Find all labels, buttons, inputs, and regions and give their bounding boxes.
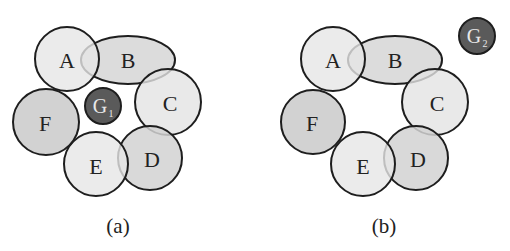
node-f: F [13,89,79,155]
node-c-label: C [163,91,178,116]
figure: B A C D E F G [0,0,510,251]
caption-a: (a) [106,214,129,238]
node-a: A [301,27,365,91]
node-e-label: E [89,154,102,179]
node-e: E [331,132,395,196]
caption-b: (b) [372,214,397,238]
node-g1: G 1 [85,88,121,124]
node-g1-subscript: 1 [109,108,114,119]
node-a-label: A [325,48,341,73]
node-f-label: F [306,111,318,136]
node-d-label: D [410,147,426,172]
node-a-label: A [59,48,75,73]
node-b-label: B [388,48,403,73]
node-f: F [281,90,345,154]
node-g2: G 2 [459,18,495,54]
node-f-label: F [39,111,51,136]
diagram-canvas: B A C D E F G [0,0,510,251]
node-a: A [35,27,99,91]
node-c-label: C [430,91,445,116]
node-g2-label: G [467,25,481,47]
panel-b: B A C D E F G [281,18,495,238]
node-g2-subscript: 2 [483,38,488,49]
node-c: C [402,69,468,135]
node-b-label: B [121,48,136,73]
node-d-label: D [144,147,160,172]
node-g1-label: G [93,95,107,117]
node-c: C [135,69,201,135]
node-e-label: E [356,154,369,179]
panel-a: B A C D E F G [13,27,201,238]
